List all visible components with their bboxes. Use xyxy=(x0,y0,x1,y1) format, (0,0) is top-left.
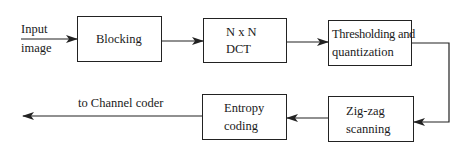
block-blocking-label: Blocking xyxy=(96,31,142,48)
block-zigzag-label-line1: Zig-zag xyxy=(346,103,385,120)
block-thresholding-label-line2: quantization xyxy=(332,44,394,61)
block-zigzag: Zig-zag scanning xyxy=(328,96,414,142)
block-zigzag-label-line2: scanning xyxy=(346,121,390,138)
block-entropy: Entropy coding xyxy=(202,94,287,140)
input-label-line2: image xyxy=(21,40,52,57)
block-dct-label-line1: N x N xyxy=(226,24,257,41)
block-thresholding-label-line1: Thresholding and xyxy=(332,26,415,43)
arrow-threshold-to-zigzag xyxy=(412,43,449,122)
output-label: to Channel coder xyxy=(78,95,163,112)
block-blocking: Blocking xyxy=(77,16,162,62)
block-dct: N x N DCT xyxy=(203,18,287,63)
block-dct-label-line2: DCT xyxy=(226,41,251,58)
input-label-line1: Input xyxy=(21,21,47,38)
block-entropy-label-line1: Entropy xyxy=(224,100,264,117)
block-thresholding: Thresholding and quantization xyxy=(328,20,412,66)
block-entropy-label-line2: coding xyxy=(224,118,258,135)
